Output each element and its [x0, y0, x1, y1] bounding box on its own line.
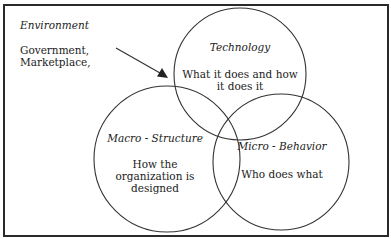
macro-structure-title: Macro - Structure: [107, 132, 203, 144]
environment-title: Environment: [20, 19, 89, 31]
micro-behavior-title: Micro - Behavior: [237, 140, 326, 152]
macro-structure-line-2: organization is: [116, 170, 195, 182]
technology-title: Technology: [210, 41, 270, 53]
arrow-icon: [116, 48, 168, 78]
micro-behavior-line-1: Who does what: [241, 168, 322, 180]
technology-line-2: it does it: [217, 80, 263, 92]
technology-line-1: What it does and how: [182, 68, 297, 80]
venn-diagram: [0, 0, 391, 239]
environment-line-2: Marketplace,: [20, 56, 91, 68]
micro-behavior-circle: [213, 94, 349, 230]
environment-line-1: Government,: [20, 44, 89, 56]
macro-structure-line-3: designed: [131, 182, 179, 194]
macro-structure-line-1: How the: [133, 158, 178, 170]
